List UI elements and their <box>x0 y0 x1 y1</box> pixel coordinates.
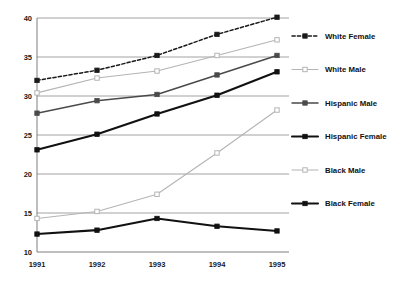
y-axis-tick-label: 40 <box>24 14 32 23</box>
legend-label: White Female <box>325 32 376 41</box>
data-point-marker-legend <box>303 201 307 205</box>
data-point-marker <box>155 112 159 116</box>
data-point-marker <box>215 151 219 155</box>
series-line <box>37 110 277 218</box>
y-axis-tick-label: 30 <box>24 92 32 101</box>
data-point-marker <box>35 78 39 82</box>
data-point-marker-legend <box>303 134 307 138</box>
legend-label: Black Male <box>325 166 366 175</box>
legend-label: Black Female <box>325 199 376 208</box>
data-point-marker <box>95 98 99 102</box>
data-point-marker <box>215 93 219 97</box>
data-point-marker <box>35 216 39 220</box>
data-point-marker-legend <box>303 34 307 38</box>
y-axis-tick-label: 20 <box>24 170 32 179</box>
data-point-marker <box>275 108 279 112</box>
data-point-marker <box>275 53 279 57</box>
series-hispanic-female <box>35 70 279 152</box>
x-axis-tick-label: 1991 <box>29 260 46 269</box>
data-point-marker-legend <box>303 101 307 105</box>
legend-item-black-female[interactable]: Black Female <box>292 199 376 208</box>
x-axis-tick-label: 1993 <box>149 260 166 269</box>
data-point-marker <box>215 224 219 228</box>
data-point-marker <box>275 229 279 233</box>
legend-label: White Male <box>325 65 366 74</box>
data-point-marker <box>155 92 159 96</box>
data-point-marker <box>95 132 99 136</box>
data-point-marker <box>275 38 279 42</box>
y-axis-tick-label: 10 <box>24 248 32 257</box>
legend-item-white-female[interactable]: White Female <box>292 32 376 41</box>
x-axis-tick-label: 1994 <box>209 260 227 269</box>
data-point-marker-legend <box>303 168 307 172</box>
data-point-marker <box>155 53 159 57</box>
line-chart: 1015202530354019911992199319941995White … <box>0 0 400 286</box>
data-point-marker <box>155 69 159 73</box>
series-black-male <box>35 108 279 221</box>
legend: White FemaleWhite MaleHispanic MaleHispa… <box>292 32 387 209</box>
series-black-female <box>35 216 279 236</box>
data-point-marker <box>215 73 219 77</box>
legend-label: Hispanic Male <box>325 99 378 108</box>
data-point-marker <box>35 91 39 95</box>
data-point-marker <box>275 70 279 74</box>
x-axis-tick-label: 1992 <box>89 260 106 269</box>
data-point-marker <box>95 68 99 72</box>
legend-label: Hispanic Female <box>325 132 387 141</box>
data-point-marker <box>215 53 219 57</box>
legend-item-hispanic-female[interactable]: Hispanic Female <box>292 132 387 141</box>
data-point-marker <box>95 228 99 232</box>
data-point-marker <box>95 76 99 80</box>
x-axis-tick-label: 1995 <box>269 260 286 269</box>
legend-item-black-male[interactable]: Black Male <box>292 166 366 175</box>
data-point-marker <box>275 15 279 19</box>
legend-item-white-male[interactable]: White Male <box>292 65 366 74</box>
data-point-marker <box>95 209 99 213</box>
chart-canvas: 1015202530354019911992199319941995White … <box>0 0 400 286</box>
data-point-marker-legend <box>303 67 307 71</box>
y-axis-tick-label: 15 <box>24 209 32 218</box>
data-point-marker <box>155 216 159 220</box>
data-point-marker <box>35 232 39 236</box>
y-axis-tick-label: 25 <box>24 131 32 140</box>
legend-item-hispanic-male[interactable]: Hispanic Male <box>292 99 378 108</box>
data-point-marker <box>35 148 39 152</box>
data-point-marker <box>215 32 219 36</box>
y-axis-tick-label: 35 <box>24 53 32 62</box>
data-point-marker <box>35 111 39 115</box>
data-point-marker <box>155 192 159 196</box>
